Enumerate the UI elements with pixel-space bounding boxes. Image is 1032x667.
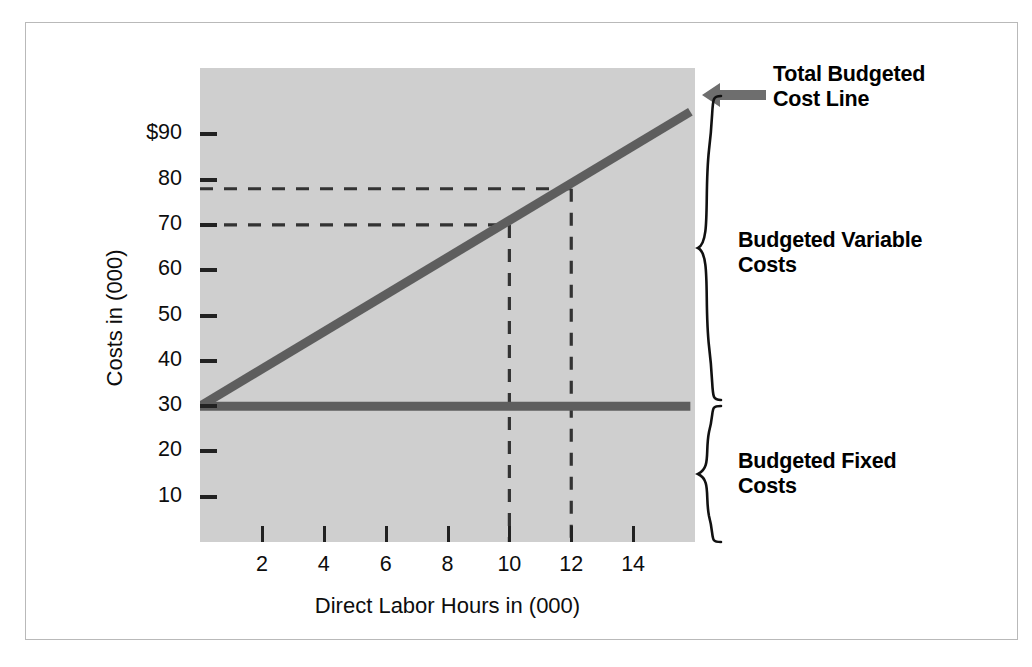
y-tick-10: [200, 495, 217, 499]
x-tick-12: [570, 526, 573, 542]
y-tick-90: [200, 132, 217, 136]
x-tick-6: [385, 526, 388, 542]
x-tick-2: [261, 526, 264, 542]
x-tick-10: [508, 526, 511, 542]
annotation-total-budgeted-cost-line: Total Budgeted Cost Line: [773, 62, 925, 113]
y-tick-80: [200, 178, 217, 182]
series-total-budgeted-cost-line: [200, 112, 690, 406]
y-tick-60: [200, 268, 217, 272]
annotation-fixed-line2: Costs: [738, 474, 896, 499]
y-tick-20: [200, 449, 217, 453]
x-tick-14: [632, 526, 635, 542]
annotation-budgeted-fixed-costs: Budgeted Fixed Costs: [738, 449, 896, 500]
x-tick-8: [447, 526, 450, 542]
chart-figure: 1020304050607080$90 2468101214 Direct La…: [0, 0, 1032, 667]
chart-lines: [200, 68, 695, 542]
annotation-fixed-line1: Budgeted Fixed: [738, 449, 896, 474]
annotation-budgeted-variable-costs: Budgeted Variable Costs: [738, 228, 922, 279]
y-tick-70: [200, 223, 217, 227]
y-axis-title: Costs in (000): [102, 198, 128, 438]
plot-area: [200, 68, 695, 542]
annotation-variable-line1: Budgeted Variable: [738, 228, 922, 253]
annotation-total-cost-line2: Cost Line: [773, 87, 925, 112]
annotation-total-cost-line1: Total Budgeted: [773, 62, 925, 87]
y-tick-30: [200, 404, 217, 408]
y-tick-50: [200, 314, 217, 318]
x-axis-title: Direct Labor Hours in (000): [200, 593, 695, 619]
y-tick-40: [200, 359, 217, 363]
annotation-variable-line2: Costs: [738, 253, 922, 278]
annotation-braces: [695, 60, 740, 560]
x-tick-4: [323, 526, 326, 542]
